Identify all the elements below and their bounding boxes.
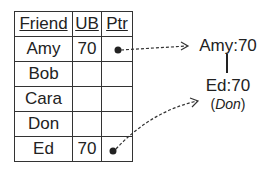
heap-node-bottom-sub: (Don) bbox=[192, 96, 264, 112]
pointer-arrow-amy bbox=[121, 46, 187, 50]
sub-name: Don bbox=[215, 96, 241, 112]
pointer-dot-ed bbox=[110, 148, 117, 155]
heap-node-bottom-label: Ed:70 bbox=[192, 76, 264, 96]
heap-node-bottom: Ed:70 (Don) bbox=[192, 76, 264, 112]
pointer-arrow-ed bbox=[116, 101, 197, 149]
pointer-dot-amy bbox=[115, 47, 122, 54]
heap-node-top: Amy:70 bbox=[192, 36, 264, 56]
paren-close: ) bbox=[241, 96, 246, 112]
